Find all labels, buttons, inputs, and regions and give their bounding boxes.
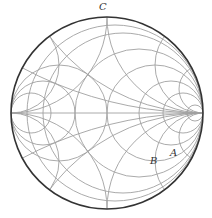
grid-lines [0, 0, 212, 218]
label-a: A [169, 147, 177, 158]
label-b: B [149, 155, 157, 166]
label-c: C [99, 1, 107, 12]
smith-chart: C A B [0, 0, 212, 218]
